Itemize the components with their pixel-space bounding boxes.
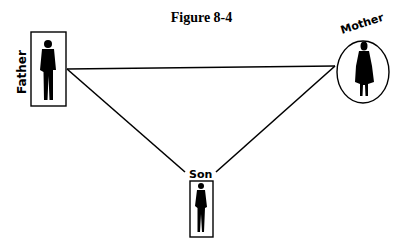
edge-mother-son xyxy=(216,66,335,172)
node-father: Father xyxy=(15,32,66,106)
edge-father-son xyxy=(67,69,185,172)
node-mother: Mother xyxy=(337,11,389,103)
father-label: Father xyxy=(15,50,29,94)
relationship-lines xyxy=(67,66,335,172)
mother-label: Mother xyxy=(339,11,386,37)
son-label: Son xyxy=(189,168,212,181)
edge-father-mother xyxy=(67,66,335,69)
family-triangle-diagram: Father Mother Son xyxy=(0,0,403,251)
node-son: Son xyxy=(189,168,213,237)
